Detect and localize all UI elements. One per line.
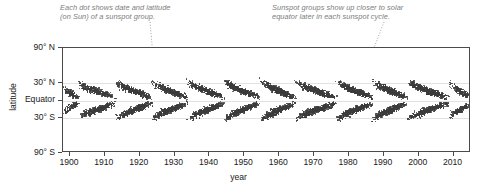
plot-area	[62, 47, 470, 152]
scatter-point	[216, 93, 217, 94]
scatter-point	[265, 85, 266, 86]
scatter-point	[212, 92, 213, 93]
scatter-point	[142, 94, 143, 95]
scatter-point	[446, 98, 447, 99]
scatter-point	[140, 96, 141, 97]
scatter-point	[259, 99, 260, 100]
scatter-point	[217, 97, 218, 98]
scatter-point	[275, 112, 276, 113]
scatter-point	[452, 118, 453, 119]
scatter-point	[366, 107, 367, 108]
scatter-point	[202, 116, 203, 117]
scatter-point	[323, 94, 324, 95]
scatter-point	[120, 115, 121, 116]
scatter-point	[112, 96, 113, 97]
scatter-point	[263, 117, 264, 118]
scatter-point	[79, 88, 80, 89]
scatter-point	[395, 105, 396, 106]
scatter-point	[355, 105, 356, 106]
scatter-point	[184, 97, 185, 98]
scatter-point	[426, 87, 427, 88]
scatter-point	[369, 108, 370, 109]
scatter-point	[89, 109, 90, 110]
scatter-point	[337, 120, 338, 121]
scatter-point	[420, 89, 421, 90]
x-tick-mark	[453, 152, 454, 156]
scatter-point	[333, 101, 334, 102]
scatter-point	[407, 97, 408, 98]
scatter-point	[131, 110, 132, 111]
scatter-point	[281, 90, 282, 91]
scatter-point	[396, 110, 397, 111]
scatter-point	[179, 98, 180, 99]
scatter-point	[343, 86, 344, 87]
y-tick-mark	[58, 82, 62, 83]
scatter-point	[323, 110, 324, 111]
scatter-point	[305, 88, 306, 89]
scatter-point	[441, 97, 442, 98]
scatter-point	[469, 98, 470, 99]
y-tick-mark	[58, 47, 62, 48]
scatter-point	[368, 98, 369, 99]
scatter-point	[275, 85, 276, 86]
scatter-point	[281, 88, 282, 89]
scatter-point	[235, 88, 236, 89]
scatter-point	[93, 87, 94, 88]
scatter-point	[463, 110, 464, 111]
scatter-point	[239, 85, 240, 86]
scatter-point	[67, 91, 68, 92]
scatter-point	[403, 97, 404, 98]
scatter-point	[312, 91, 313, 92]
scatter-point	[155, 87, 156, 88]
scatter-point	[323, 108, 324, 109]
scatter-point	[84, 85, 85, 86]
scatter-point	[257, 104, 258, 105]
scatter-point	[256, 104, 257, 105]
scatter-point	[275, 92, 276, 93]
scatter-point	[125, 91, 126, 92]
scatter-point	[192, 113, 193, 114]
scatter-point	[407, 99, 408, 100]
scatter-point	[459, 89, 460, 90]
scatter-point	[74, 92, 75, 93]
scatter-point	[190, 119, 191, 120]
scatter-point	[323, 90, 324, 91]
scatter-point	[90, 114, 91, 115]
scatter-point	[275, 90, 276, 91]
scatter-point	[152, 105, 153, 106]
scatter-point	[280, 110, 281, 111]
scatter-point	[180, 109, 181, 110]
scatter-point	[194, 114, 195, 115]
scatter-point	[459, 110, 460, 111]
scatter-point	[452, 83, 453, 84]
scatter-point	[262, 84, 263, 85]
scatter-point	[394, 94, 395, 95]
scatter-point	[440, 106, 441, 107]
scatter-point	[401, 105, 402, 106]
scatter-point	[272, 89, 273, 90]
scatter-point	[181, 107, 182, 108]
scatter-point	[369, 97, 370, 98]
scatter-point	[175, 95, 176, 96]
scatter-point	[275, 114, 276, 115]
scatter-point	[141, 109, 142, 110]
x-tick-label: 2000	[402, 157, 434, 167]
scatter-point	[465, 104, 466, 105]
scatter-point	[285, 93, 286, 94]
scatter-point	[378, 111, 379, 112]
scatter-point	[255, 97, 256, 98]
scatter-point	[196, 116, 197, 117]
x-tick-label: 1910	[88, 157, 120, 167]
scatter-point	[235, 83, 236, 84]
y-axis-title: latitude	[8, 67, 18, 127]
scatter-point	[408, 119, 409, 120]
scatter-point	[137, 92, 138, 93]
scatter-point	[172, 95, 173, 96]
y-tick-mark	[58, 152, 62, 153]
scatter-point	[422, 112, 423, 113]
scatter-point	[306, 117, 307, 118]
scatter-point	[352, 113, 353, 114]
scatter-point	[135, 89, 136, 90]
scatter-point	[156, 119, 157, 120]
x-tick-mark	[278, 152, 279, 156]
